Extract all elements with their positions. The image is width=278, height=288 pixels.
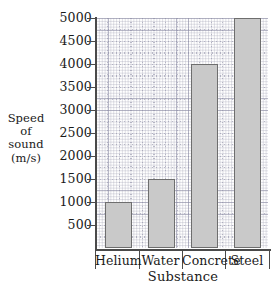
y-tick-label: 5000 [50, 12, 92, 24]
y-tick-label: 4000 [50, 58, 92, 70]
y-tick-label: 500 [50, 219, 92, 231]
bar-chart: Speed of sound (m/s) 5000 4500 4000 3500… [0, 0, 278, 288]
y-axis-title: Speed of sound (m/s) [0, 112, 52, 165]
x-axis-category-row: Helium Water Concrete Steel [95, 251, 271, 270]
x-tick-label-steel: Steel [225, 251, 269, 270]
y-tick-label: 4500 [50, 35, 92, 47]
y-tick-label: 1500 [50, 173, 92, 185]
y-axis-title-line-4: (m/s) [0, 152, 52, 165]
bar-steel[interactable] [234, 18, 261, 248]
x-tick-label-concrete: Concrete [182, 251, 225, 270]
x-axis-title: Substance [95, 269, 271, 284]
y-tick-label: 3000 [50, 104, 92, 116]
y-tick-label: 3500 [50, 81, 92, 93]
plot-area [96, 18, 268, 248]
bar-helium[interactable] [105, 202, 132, 248]
y-axis-title-line-3: sound [0, 138, 52, 151]
y-tick-label: 2000 [50, 150, 92, 162]
y-axis-line [95, 17, 97, 250]
y-tick-label: 1000 [50, 196, 92, 208]
y-axis-tick-labels: 5000 4500 4000 3500 3000 2500 2000 1500 … [50, 0, 92, 288]
bar-water[interactable] [148, 179, 175, 248]
bar-concrete[interactable] [191, 64, 218, 248]
x-tick-label-helium: Helium [95, 251, 139, 270]
y-tick-label: 2500 [50, 127, 92, 139]
category-divider [269, 250, 270, 269]
x-tick-label-water: Water [139, 251, 182, 270]
